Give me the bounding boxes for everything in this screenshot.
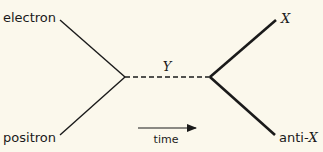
- x-line: [210, 20, 276, 77]
- anti-x-symbol: X: [308, 130, 319, 145]
- feynman-diagram: electron positron Y X anti-X time: [0, 0, 323, 152]
- positron-line: [60, 77, 125, 135]
- x-label: X: [280, 11, 291, 26]
- electron-label: electron: [3, 10, 56, 25]
- positron-label: positron: [3, 130, 56, 145]
- time-label: time: [154, 133, 179, 146]
- anti-x-label: anti-X: [279, 130, 319, 145]
- anti-x-line: [210, 77, 275, 135]
- electron-line: [60, 20, 125, 77]
- propagator-label: Y: [163, 59, 173, 74]
- anti-x-prefix: anti-: [279, 130, 309, 145]
